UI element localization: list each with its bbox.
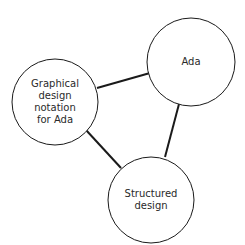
node-label-graphical-design-notation: Graphical design notation for Ada — [31, 78, 79, 126]
edge-graphical-structured — [86, 130, 121, 168]
diagram-canvas: Ada Graphical design notation for Ada St… — [0, 0, 245, 245]
node-label-ada: Ada — [181, 56, 200, 68]
nodes — [12, 18, 235, 243]
node-label-structured-design: Structured design — [125, 188, 178, 212]
edge-graphical-ada — [97, 73, 150, 88]
edge-ada-structured — [165, 104, 179, 157]
